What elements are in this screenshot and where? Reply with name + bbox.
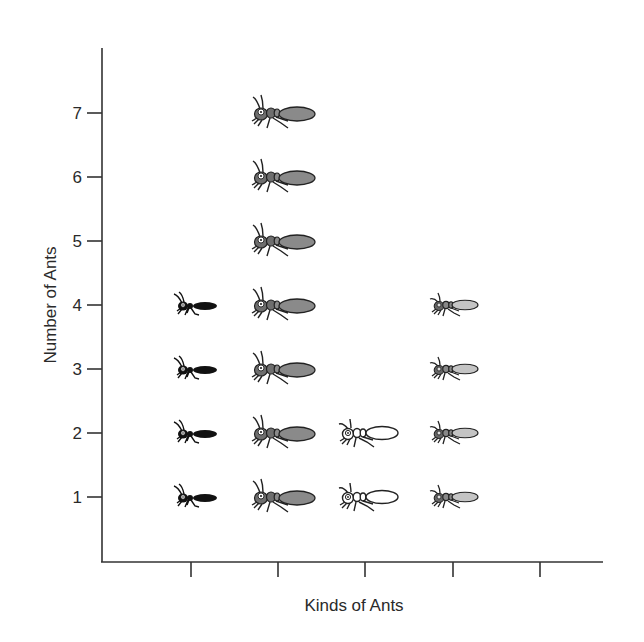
y-tick-label: 7 [73,104,82,123]
light-gray-ant-icon [430,357,478,380]
ant-column-3 [339,419,398,511]
y-tick-label: 6 [73,168,82,187]
light-gray-ant-icon [430,293,478,316]
y-ticks: 1234567 [73,104,102,507]
large-gray-ant-icon [252,287,315,320]
ant-column-1 [174,292,217,507]
y-tick-label: 4 [73,296,82,315]
light-gray-ant-icon [430,421,478,444]
y-tick-label: 3 [73,360,82,379]
y-tick-label: 5 [73,232,82,251]
large-gray-ant-icon [252,351,315,384]
large-gray-ant-icon [252,479,315,512]
x-ticks [191,562,540,577]
y-axis-label: Number of Ants [41,246,60,363]
light-gray-ant-icon [430,485,478,508]
ant-column-4 [430,293,478,508]
ant-pictograph-chart: 1234567 Number of Ants Kinds of Ants [0,0,644,642]
y-tick-label: 1 [73,488,82,507]
large-gray-ant-icon [252,159,315,192]
ant-columns [174,95,478,512]
ant-column-2 [252,95,315,512]
large-gray-ant-icon [252,223,315,256]
black-ant-icon [174,292,217,315]
black-ant-icon [174,420,217,443]
white-ant-icon [339,419,398,447]
x-axis-label: Kinds of Ants [304,596,403,615]
black-ant-icon [174,484,217,507]
large-gray-ant-icon [252,95,315,128]
white-ant-icon [339,483,398,511]
black-ant-icon [174,356,217,379]
y-tick-label: 2 [73,424,82,443]
large-gray-ant-icon [252,415,315,448]
